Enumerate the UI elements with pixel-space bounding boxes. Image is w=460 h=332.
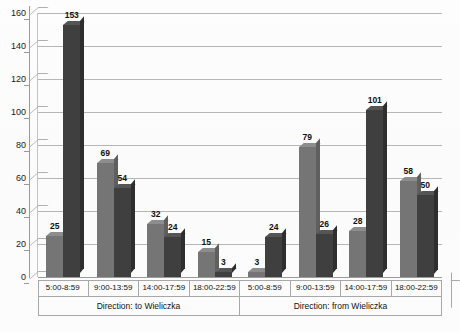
bar-value-label-series-1-4: 3 (243, 258, 270, 267)
bar-side (181, 229, 185, 273)
y-tick-mark-120 (24, 85, 29, 86)
bar-face (63, 25, 80, 277)
bar-series-2-5 (316, 234, 333, 277)
category-label-7: 18:00-22:59 (392, 280, 443, 296)
y-tick-label-140: 140 (0, 41, 26, 51)
category-label-row: 5:00-8:599:00-13:5914:00-17:5918:00-22:5… (38, 280, 442, 296)
y-tick-label-120: 120 (0, 74, 26, 84)
bar-series-2-7 (417, 195, 434, 278)
y-tick-label-160: 160 (0, 8, 26, 18)
bar-face (46, 236, 63, 277)
bar-value-label-series-2-0: 153 (58, 11, 85, 20)
category-label-0: 5:00-8:59 (38, 280, 89, 296)
category-axis: 5:00-8:599:00-13:5914:00-17:5918:00-22:5… (38, 277, 450, 332)
bar-value-label-series-1-7: 58 (395, 167, 422, 176)
axis-depth-wedge (442, 272, 452, 315)
bar-series-2-6 (366, 110, 383, 277)
bar-value-label-series-1-2: 32 (142, 210, 169, 219)
y-tick-mark-140 (24, 52, 29, 53)
bar-value-label-series-1-1: 69 (92, 149, 119, 158)
category-row-bottom-line (38, 315, 442, 316)
y-tick-mark-100 (24, 118, 29, 119)
bar-value-label-series-1-6: 28 (344, 217, 371, 226)
gridline-140 (38, 46, 442, 47)
bar-chart: 5:00-8:599:00-13:5914:00-17:5918:00-22:5… (0, 0, 460, 332)
y-tick-label-0: 0 (0, 272, 26, 282)
plot-area (38, 13, 442, 277)
bar-side (131, 179, 135, 273)
bar-value-label-series-2-7: 50 (412, 181, 439, 190)
y-tick-mark-80 (24, 151, 29, 152)
bar-series-1-6 (349, 231, 366, 277)
bar-side (383, 102, 387, 273)
y-tick-mark-60 (24, 184, 29, 185)
bar-value-label-series-1-0: 25 (41, 222, 68, 231)
bar-series-2-0 (63, 25, 80, 277)
direction-label-0: Direction: to Wieliczka (38, 297, 240, 315)
y-tick-label-80: 80 (0, 140, 26, 150)
bar-value-label-series-2-6: 101 (361, 96, 388, 105)
category-label-1: 9:00-13:59 (89, 280, 140, 296)
y-tick-mark-0 (24, 283, 29, 284)
bar-series-2-2 (164, 237, 181, 277)
bar-face (400, 181, 417, 277)
bar-face (417, 195, 434, 278)
bar-series-1-7 (400, 181, 417, 277)
y-tick-label-60: 60 (0, 173, 26, 183)
bar-value-label-series-1-3: 15 (193, 238, 220, 247)
category-label-6: 14:00-17:59 (341, 280, 392, 296)
y-tick-label-20: 20 (0, 239, 26, 249)
y-tick-label-100: 100 (0, 107, 26, 117)
bar-side (434, 186, 438, 273)
bar-face (316, 234, 333, 277)
bar-side (80, 16, 84, 273)
bar-value-label-series-2-4: 24 (260, 223, 287, 232)
y-tick-label-40: 40 (0, 206, 26, 216)
bar-face (299, 147, 316, 277)
gridline-120 (38, 79, 442, 80)
y-tick-mark-40 (24, 217, 29, 218)
bar-side (333, 225, 337, 273)
bar-face (114, 188, 131, 277)
bar-value-label-series-1-5: 79 (294, 133, 321, 142)
category-label-4: 5:00-8:59 (240, 280, 291, 296)
direction-label-1: Direction: from Wieliczka (240, 297, 442, 315)
bar-series-1-5 (299, 147, 316, 277)
y-tick-mark-160 (24, 19, 29, 20)
bar-series-1-0 (46, 236, 63, 277)
bar-value-label-series-2-3: 3 (210, 258, 237, 267)
bar-value-label-series-2-1: 54 (109, 174, 136, 183)
bar-face (366, 110, 383, 277)
bar-side (282, 229, 286, 273)
bar-value-label-series-2-5: 26 (311, 220, 338, 229)
bar-series-2-1 (114, 188, 131, 277)
category-label-3: 18:00-22:59 (190, 280, 241, 296)
category-label-5: 9:00-13:59 (291, 280, 342, 296)
category-label-2: 14:00-17:59 (139, 280, 190, 296)
bar-face (349, 231, 366, 277)
bar-value-label-series-2-2: 24 (159, 223, 186, 232)
gridline-160 (38, 13, 442, 14)
y-tick-mark-20 (24, 250, 29, 251)
bar-face (164, 237, 181, 277)
direction-label-row: Direction: to WieliczkaDirection: from W… (38, 297, 442, 315)
